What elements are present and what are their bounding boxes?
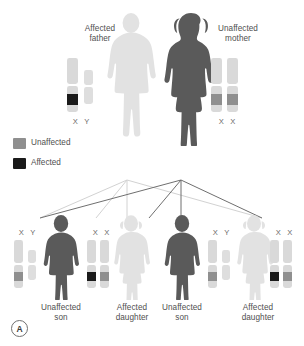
band-unaffected xyxy=(14,272,23,281)
chromosome-arm-upper xyxy=(14,240,23,263)
child-1-silhouette xyxy=(40,215,82,300)
chromosome-arm-upper xyxy=(208,240,217,263)
child-4-karyotype xyxy=(268,240,300,298)
chromosome-arm-upper xyxy=(28,250,36,263)
child-4-chromosome-x-2 xyxy=(283,240,292,288)
child-2-karyotype-label: X X xyxy=(83,228,119,237)
panel-label: A xyxy=(11,320,28,337)
band-affected xyxy=(87,272,96,281)
chromosome-arm-lower xyxy=(28,265,36,280)
chromosome-arm-upper xyxy=(87,240,96,263)
chromosome-arm-upper xyxy=(100,240,109,263)
band-unaffected xyxy=(100,272,109,281)
child-1-chromosome-x xyxy=(14,240,23,288)
child-4-chromosome-x-1 xyxy=(270,240,279,288)
child-1-caption: Unaffected son xyxy=(24,303,98,323)
child-4-caption: Affected daughter xyxy=(222,303,294,323)
band-unaffected xyxy=(208,272,217,281)
band-affected xyxy=(270,272,279,281)
chromosome-arm-upper xyxy=(283,240,292,263)
child-3-chromosome-y xyxy=(222,250,230,280)
child-1-chromosome-y xyxy=(28,250,36,280)
child-2-karyotype xyxy=(85,240,117,298)
pedigree-diagram: Affected father Unaffected mother xyxy=(0,0,304,346)
chromosome-arm-lower xyxy=(222,265,230,280)
child-2-chromosome-x-2 xyxy=(100,240,109,288)
child-3-silhouette xyxy=(161,215,203,300)
child-1-karyotype-label: X Y xyxy=(9,228,45,237)
child-3-caption: Unaffected son xyxy=(145,303,219,323)
child-2-chromosome-x-1 xyxy=(87,240,96,288)
child-3-chromosome-x xyxy=(208,240,217,288)
chromosome-arm-upper xyxy=(222,250,230,263)
child-1-karyotype xyxy=(11,240,43,298)
child-4-karyotype-label: X X xyxy=(266,228,302,237)
band-unaffected xyxy=(283,272,292,281)
chromosome-arm-upper xyxy=(270,240,279,263)
